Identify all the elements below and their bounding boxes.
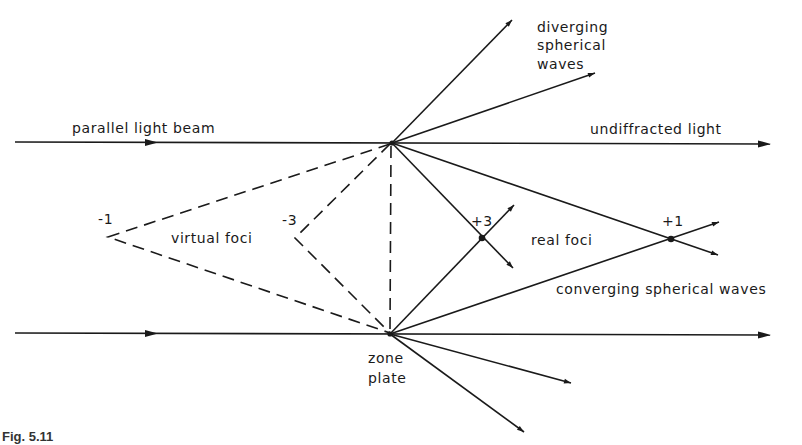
diverging-ray-3: [392, 20, 512, 143]
converging-ray-plus3-bottom: [390, 205, 514, 334]
zone-plate-bottom-point: [387, 331, 392, 336]
zone-plate-line: [390, 146, 391, 330]
label-minus3: -3: [282, 212, 297, 228]
label-plate: plate: [368, 370, 406, 386]
label-diverging-2: spherical: [537, 37, 606, 53]
label-minus1: -1: [98, 211, 113, 227]
diverging-ray-1: [392, 73, 595, 143]
label-undiffracted: undiffracted light: [590, 121, 722, 137]
label-plus3: +3: [471, 213, 493, 229]
label-plus1: +1: [662, 213, 684, 229]
undiffracted-arrow: [758, 141, 771, 148]
label-zone: zone: [368, 350, 404, 366]
converging-ray-plus3-top: [392, 143, 513, 268]
top-beam-arrow: [145, 139, 158, 146]
label-virtual-foci: virtual foci: [171, 230, 253, 246]
diverging-ray-lower-1: [390, 334, 571, 383]
virtual-ray-minus3: [295, 144, 390, 333]
figure-caption: Fig. 5.11: [2, 429, 53, 444]
zone-plate-diagram: parallel light beam undiffracted light d…: [0, 0, 802, 445]
focus-plus1-dot: [668, 236, 675, 243]
label-diverging-3: waves: [537, 56, 584, 72]
diverging-ray-lower-3: [390, 334, 524, 432]
focus-plus3-dot: [479, 235, 486, 242]
label-diverging-1: diverging: [537, 19, 608, 35]
bottom-beam-end-arrow: [758, 332, 771, 339]
label-parallel-beam: parallel light beam: [72, 120, 215, 136]
zone-plate-top-point: [389, 140, 394, 145]
label-real-foci: real foci: [531, 232, 592, 248]
label-converging: converging spherical waves: [556, 281, 766, 297]
bottom-beam-arrow: [145, 330, 158, 337]
